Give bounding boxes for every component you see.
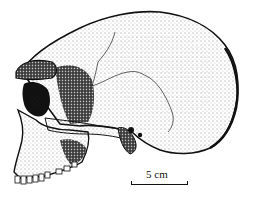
scale-bar <box>131 181 188 185</box>
ear-canal <box>128 127 134 133</box>
brow-ridge <box>16 60 57 79</box>
skull-illustration <box>0 0 254 201</box>
scale-bar-label: 5 cm <box>146 168 168 180</box>
